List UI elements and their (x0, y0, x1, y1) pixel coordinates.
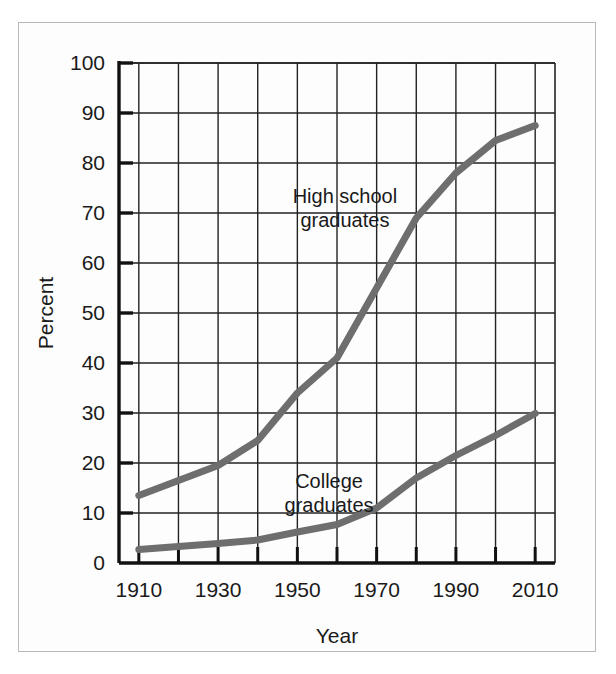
annotation-line: College (295, 470, 363, 492)
chart-figure: 0102030405060708090100 19101930195019701… (18, 22, 596, 652)
y-axis-tick-label: 10 (82, 501, 105, 524)
x-axis-tick-label: 1970 (353, 578, 400, 601)
y-axis-tick-label: 0 (93, 551, 105, 574)
x-axis-tick-label: 1950 (274, 578, 321, 601)
y-axis-tick-label: 20 (82, 451, 105, 474)
y-axis-tick-label: 40 (82, 351, 105, 374)
x-axis-tick-label: 1930 (195, 578, 242, 601)
x-axis-tick-label: 1990 (433, 578, 480, 601)
y-axis-tick-label: 80 (82, 151, 105, 174)
y-axis-tick-label: 60 (82, 251, 105, 274)
annotation-line: High school (293, 185, 398, 207)
x-axis-title: Year (316, 624, 358, 647)
y-axis-tick-label: 70 (82, 201, 105, 224)
x-axis-tick-label: 1910 (115, 578, 162, 601)
y-axis-tick-label: 50 (82, 301, 105, 324)
chart-background (19, 23, 595, 651)
line-chart: 0102030405060708090100 19101930195019701… (19, 23, 595, 651)
annotation-line: graduates (300, 209, 389, 231)
y-axis-tick-label: 30 (82, 401, 105, 424)
y-axis-tick-label: 90 (82, 101, 105, 124)
y-axis-tick-label: 100 (70, 51, 105, 74)
x-axis-tick-label: 2010 (512, 578, 559, 601)
y-axis-title: Percent (34, 277, 57, 350)
annotation-line: graduates (285, 494, 374, 516)
